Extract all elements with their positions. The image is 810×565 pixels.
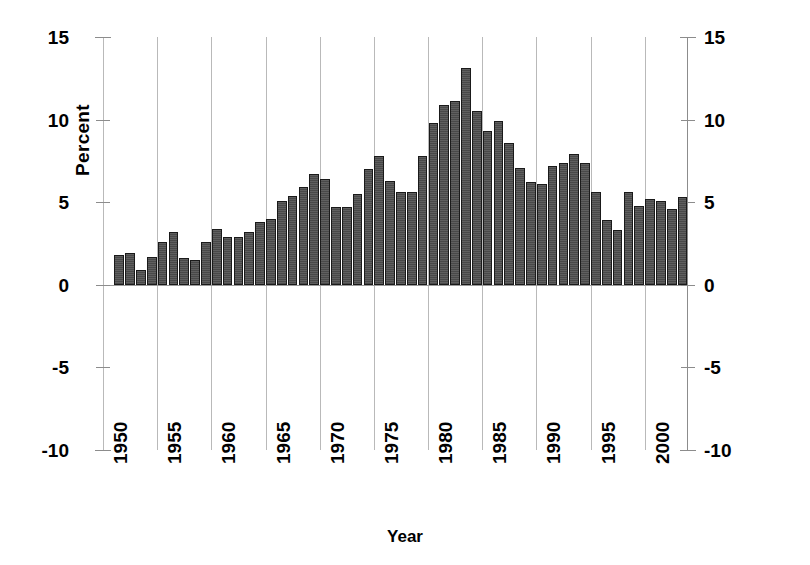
bar-1978 — [407, 192, 417, 285]
chart-figure: Percent 151510105500-5-5-10-10 195019551… — [0, 0, 810, 565]
y-tick-label-right--5: -5 — [704, 358, 774, 377]
bar-1976 — [385, 181, 395, 285]
bar-1999 — [634, 206, 644, 285]
bar-1971 — [331, 207, 341, 285]
bar-1991 — [548, 166, 558, 285]
y-tick-left-0 — [96, 285, 110, 286]
bar-1973 — [353, 194, 363, 285]
bar-1998 — [624, 192, 634, 285]
y-tick-label-left-10: 10 — [0, 111, 69, 130]
bar-1954 — [147, 257, 157, 285]
bar-1984 — [472, 111, 482, 284]
bar-1961 — [223, 237, 233, 285]
y-tick-right--5 — [681, 367, 695, 368]
y-tick-right-10 — [681, 120, 695, 121]
bar-1977 — [396, 192, 406, 285]
bar-1983 — [461, 68, 471, 284]
y-tick-left-15 — [95, 37, 111, 38]
bar-1980 — [429, 123, 439, 285]
bar-1965 — [266, 219, 276, 285]
bar-2000 — [645, 199, 655, 285]
x-tick-label-2000: 2000 — [653, 422, 672, 464]
x-tick-label-1990: 1990 — [544, 422, 563, 464]
bar-1966 — [277, 201, 287, 285]
bar-1990 — [537, 184, 547, 285]
zero-baseline — [103, 285, 688, 286]
bar-1968 — [299, 187, 309, 284]
bar-1974 — [364, 169, 374, 285]
gridline-1950 — [103, 37, 104, 450]
plot-area: 151510105500-5-5-10-10 19501955196019651… — [103, 37, 688, 450]
y-tick-right-0 — [681, 285, 695, 286]
bar-2001 — [656, 201, 666, 285]
y-tick-label-right-10: 10 — [704, 111, 774, 130]
bar-1987 — [504, 143, 514, 285]
bar-1989 — [526, 182, 536, 284]
bar-1962 — [234, 237, 244, 285]
y-tick-label-left-0: 0 — [0, 276, 69, 295]
x-tick-label-1955: 1955 — [165, 422, 184, 464]
y-tick-left-10 — [96, 120, 110, 121]
bar-1963 — [244, 232, 254, 285]
bar-1956 — [169, 232, 179, 285]
bar-1993 — [569, 154, 579, 285]
y-tick-left--5 — [96, 367, 110, 368]
bar-1958 — [190, 260, 200, 285]
bar-1960 — [212, 229, 222, 285]
y-tick-label-right-5: 5 — [704, 193, 774, 212]
bar-1986 — [494, 121, 504, 285]
bar-1969 — [309, 174, 319, 285]
x-tick-label-1985: 1985 — [490, 422, 509, 464]
bar-1952 — [125, 253, 135, 284]
bar-1967 — [288, 196, 298, 285]
x-tick-label-1975: 1975 — [382, 422, 401, 464]
y-tick-right-15 — [680, 37, 696, 38]
y-tick-label-right-15: 15 — [704, 28, 774, 47]
bar-1959 — [201, 242, 211, 285]
bar-1953 — [136, 270, 146, 285]
y-tick-label-right-0: 0 — [704, 276, 774, 295]
bar-1982 — [450, 101, 460, 284]
bar-1975 — [374, 156, 384, 285]
x-tick-label-1970: 1970 — [328, 422, 347, 464]
bar-2002 — [667, 209, 677, 285]
y-tick-label-left--10: -10 — [0, 441, 69, 460]
bar-1992 — [559, 163, 569, 285]
bar-1970 — [320, 179, 330, 285]
x-axis-title: Year — [0, 527, 810, 547]
x-tick-label-1950: 1950 — [111, 422, 130, 464]
bar-1994 — [580, 163, 590, 285]
bar-1957 — [179, 258, 189, 284]
y-tick-left--10 — [95, 450, 111, 451]
y-tick-label-right--10: -10 — [704, 441, 774, 460]
bar-1972 — [342, 207, 352, 285]
bar-1951 — [114, 255, 124, 285]
y-tick-label-left-5: 5 — [0, 193, 69, 212]
x-tick-label-1960: 1960 — [219, 422, 238, 464]
bar-1981 — [439, 105, 449, 285]
y-tick-right--10 — [680, 450, 696, 451]
y-tick-label-left-15: 15 — [0, 28, 69, 47]
bar-1985 — [483, 131, 493, 285]
x-tick-label-1980: 1980 — [436, 422, 455, 464]
bar-1996 — [602, 220, 612, 284]
bar-1988 — [515, 168, 525, 285]
bar-1955 — [158, 242, 168, 285]
bar-1979 — [418, 156, 428, 285]
bar-1997 — [613, 230, 623, 285]
y-tick-left-5 — [96, 202, 110, 203]
bar-1995 — [591, 192, 601, 285]
bar-2003 — [678, 197, 688, 285]
x-tick-label-1965: 1965 — [274, 422, 293, 464]
x-tick-label-1995: 1995 — [599, 422, 618, 464]
y-tick-label-left--5: -5 — [0, 358, 69, 377]
bar-1964 — [255, 222, 265, 285]
